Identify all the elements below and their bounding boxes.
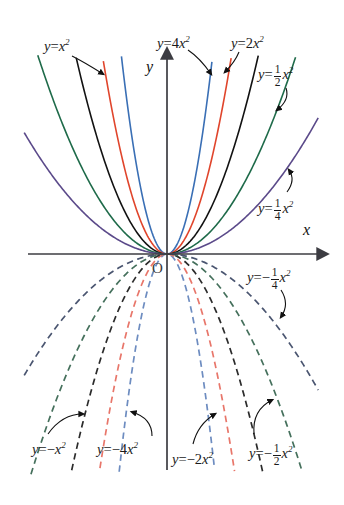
- numerator: 1: [274, 198, 282, 210]
- annotation-arrow: [72, 56, 103, 74]
- exponent: 2: [288, 444, 293, 454]
- annotation-arrow: [254, 400, 272, 434]
- equation-label-y-eq-neg-quarter-x2: y=−14x2: [247, 267, 291, 291]
- equals-sign: =: [264, 200, 272, 216]
- equals-sign: =: [253, 269, 261, 285]
- denominator: 2: [273, 455, 281, 468]
- x-axis-label: x: [303, 221, 310, 239]
- equals-sign: =: [237, 35, 245, 51]
- curves-layer: [24, 55, 318, 474]
- minus-sign: −: [47, 441, 55, 457]
- fraction-coefficient: 12: [273, 443, 281, 467]
- equals-sign: =: [163, 35, 171, 51]
- annotation-arrow: [225, 52, 239, 72]
- exponent: 2: [289, 65, 294, 75]
- equation-label-y-eq-4x2: y=4x2: [157, 35, 190, 50]
- annotation-arrow: [281, 290, 286, 317]
- equals-sign: =: [103, 441, 111, 457]
- equals-sign: =: [264, 66, 272, 82]
- annotation-arrows-layer: [48, 50, 292, 444]
- annotation-arrow: [132, 412, 152, 436]
- numerator: 1: [271, 267, 279, 279]
- annotation-arrow: [287, 170, 292, 192]
- exponent: 2: [209, 450, 214, 460]
- numerator: 1: [274, 64, 282, 76]
- denominator: 2: [274, 76, 282, 89]
- denominator: 4: [271, 279, 279, 292]
- exponent: 2: [185, 34, 190, 44]
- equals-sign: =: [255, 445, 263, 461]
- equation-label-y-eq-quarter-x2: y=14x2: [258, 198, 293, 222]
- minus-sign: −: [262, 269, 270, 285]
- exponent: 2: [65, 37, 70, 47]
- equals-sign: =: [38, 441, 46, 457]
- numerator: 1: [273, 443, 281, 455]
- minus-sign: −: [187, 451, 195, 467]
- equals-sign: =: [50, 38, 58, 54]
- equation-label-y-eq-neg-half-x2: y=−12x2: [249, 443, 293, 467]
- exponent: 2: [289, 199, 294, 209]
- equation-label-y-eq-half-x2: y=12x2: [258, 64, 293, 88]
- annotation-arrow: [48, 414, 83, 434]
- minus-sign: −: [264, 445, 272, 461]
- exponent: 2: [134, 440, 139, 450]
- exponent: 2: [61, 440, 66, 450]
- minus-sign: −: [112, 441, 120, 457]
- coefficient: 4: [120, 441, 127, 457]
- y-axis-label: y: [146, 58, 153, 76]
- equation-label-y-eq-neg-x2: y=−x2: [32, 441, 66, 456]
- annotation-arrow: [188, 50, 211, 74]
- denominator: 4: [274, 210, 282, 223]
- fraction-coefficient: 12: [274, 64, 282, 88]
- exponent: 2: [259, 34, 264, 44]
- axes-layer: [28, 58, 318, 470]
- coefficient: 4: [172, 35, 179, 51]
- parabola-figure: y=x2y=4x2y=2x2y=12x2y=14x2y=−14x2y=−x2y=…: [0, 0, 344, 505]
- coefficient: 2: [246, 35, 253, 51]
- fraction-coefficient: 14: [274, 198, 282, 222]
- equation-label-y-eq-x2: y=x2: [44, 38, 70, 53]
- equation-label-y-eq-neg-4x2: y=−4x2: [97, 441, 138, 456]
- equals-sign: =: [178, 451, 186, 467]
- fraction-coefficient: 14: [271, 267, 279, 291]
- equation-label-y-eq-2x2: y=2x2: [231, 35, 264, 50]
- origin-label: O: [152, 260, 163, 277]
- exponent: 2: [286, 268, 291, 278]
- coefficient: 2: [195, 451, 202, 467]
- equation-label-y-eq-neg-2x2: y=−2x2: [172, 451, 213, 466]
